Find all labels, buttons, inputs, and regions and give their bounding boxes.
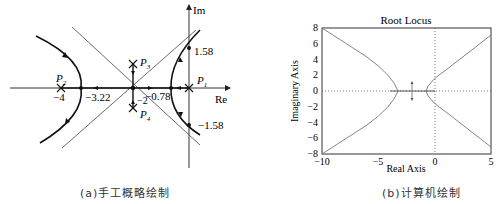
- left-branch: [322, 28, 398, 154]
- svg-text:2: 2: [313, 69, 318, 80]
- hand-sketch-plot: Im Re: [0, 0, 250, 180]
- im-cross-pos-label: 1.58: [194, 45, 214, 57]
- svg-text:6: 6: [313, 38, 318, 49]
- im-axis-label: Im: [193, 4, 206, 16]
- y-axis-label: Imaginary Axis: [289, 60, 300, 122]
- svg-text:−5: −5: [373, 156, 384, 167]
- panel-b-caption: (b)计算机绘制: [382, 184, 461, 200]
- pole-p2-label: P2: [55, 72, 67, 87]
- svg-text:0: 0: [433, 156, 438, 167]
- im-cross-neg-label: −1.58: [198, 119, 224, 131]
- re-axis-label: Re: [215, 93, 227, 105]
- svg-text:0: 0: [313, 85, 318, 96]
- panel-b-computer-plot: Root Locus −10 −5 0 5 8 6 4 2 0 −2 −4 −6: [250, 0, 496, 204]
- p2-value-label: −4: [53, 91, 65, 103]
- svg-text:−4: −4: [307, 117, 318, 128]
- svg-text:4: 4: [313, 54, 318, 65]
- svg-text:8: 8: [313, 22, 318, 33]
- pole-p1-label: P1: [196, 74, 207, 89]
- breakaway-right-label: −0.78: [145, 90, 171, 102]
- panel-a-caption: (a)手工概略绘制: [80, 184, 170, 200]
- pole-p3-label: P3: [139, 56, 151, 71]
- root-locus-plot: Root Locus −10 −5 0 5 8 6 4 2 0 −2 −4 −6: [250, 0, 496, 180]
- panel-a-hand-sketch: Im Re: [0, 0, 250, 204]
- plot-title: Root Locus: [380, 14, 431, 26]
- center-value-label: −2: [137, 95, 148, 106]
- asymptote-1: [72, 27, 200, 145]
- svg-text:−8: −8: [307, 148, 318, 159]
- pole-p4-label: P4: [139, 108, 151, 123]
- left-branch: [36, 36, 81, 143]
- svg-text:5: 5: [489, 156, 494, 167]
- x-axis-label: Real Axis: [386, 163, 425, 174]
- y-tick-labels: 8 6 4 2 0 −2 −4 −6 −8: [307, 22, 318, 159]
- svg-text:−2: −2: [307, 101, 318, 112]
- svg-text:−6: −6: [307, 132, 318, 143]
- breakaway-left-label: −3.22: [85, 91, 110, 103]
